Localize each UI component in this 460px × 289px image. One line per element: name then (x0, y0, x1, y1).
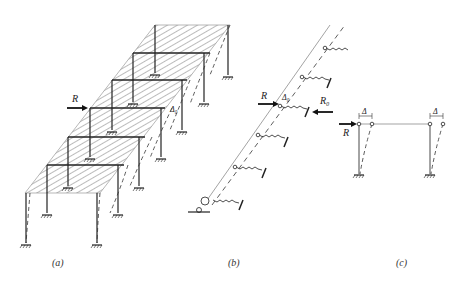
panel-c-plane-frame: Δ Δ R (c) (339, 107, 445, 269)
label-R-b: R (260, 90, 267, 101)
label-R-a: R (71, 93, 78, 104)
label-delta-a: Δ₀ (169, 105, 178, 114)
caption-b: (b) (228, 257, 240, 269)
label-R0-b: R₀ (319, 95, 330, 106)
panel-a-frames: R Δ₀ (a) (20, 25, 233, 269)
label-delta-b: Δ₀ (281, 93, 290, 102)
label-delta-c-left: Δ (361, 107, 367, 116)
panel-b-spring-model: R Δ₀ R₀ (b) (188, 25, 348, 269)
caption-a: (a) (52, 257, 64, 269)
label-R-c: R (342, 127, 349, 138)
label-delta-c-right: Δ (432, 107, 438, 116)
caption-c: (c) (396, 257, 408, 269)
structural-diagram: R Δ₀ (a) R Δ₀ R₀ (0, 0, 460, 289)
